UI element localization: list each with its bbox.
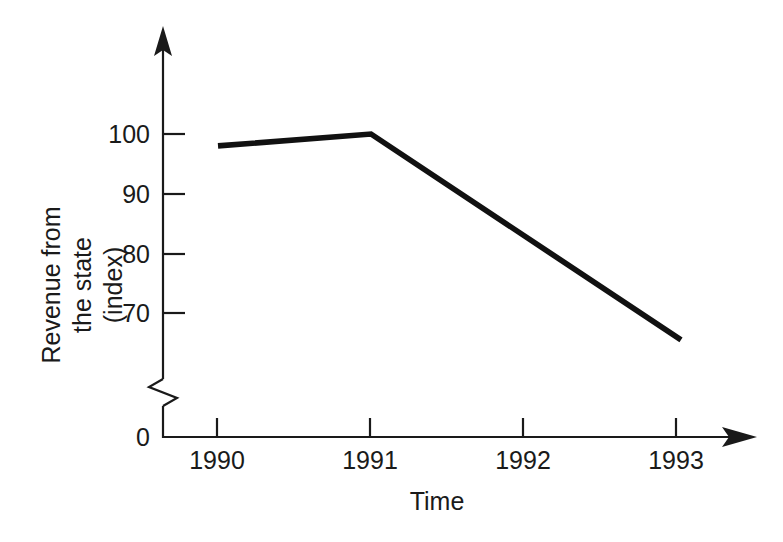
- x-tick-label-1990: 1990: [189, 446, 245, 474]
- y-tick-label-100: 100: [108, 120, 150, 148]
- line-chart: 100 90 80 70 0 1990 1991 1992 1993 Reven…: [0, 0, 783, 542]
- y-tick-label-0: 0: [136, 423, 150, 451]
- y-axis-title-line-3: (index): [99, 247, 127, 323]
- y-axis-title-line-1: Revenue from: [37, 206, 65, 363]
- x-axis-title: Time: [410, 487, 465, 515]
- x-tick-label-1991: 1991: [342, 446, 398, 474]
- chart-figure: 100 90 80 70 0 1990 1991 1992 1993 Reven…: [0, 0, 783, 542]
- y-axis-title-line-2: the state: [68, 237, 96, 333]
- y-tick-label-90: 90: [122, 180, 150, 208]
- x-tick-label-1993: 1993: [648, 446, 704, 474]
- x-tick-label-1992: 1992: [495, 446, 551, 474]
